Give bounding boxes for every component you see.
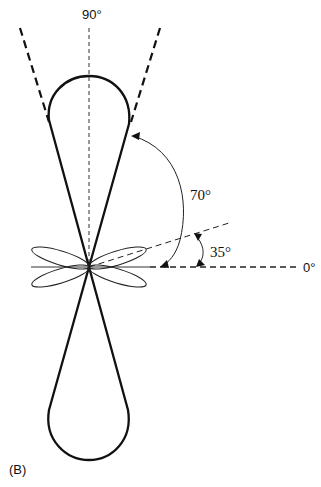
axis-35-degree-line xyxy=(89,223,229,267)
radiation-pattern-diagram: 90° 0° 70° 35° (B) xyxy=(0,0,321,487)
main-lobe-lower xyxy=(48,267,128,460)
label-70-degree: 70° xyxy=(190,187,211,203)
panel-label: (B) xyxy=(9,462,26,477)
arrowhead-35-bottom-icon xyxy=(196,259,205,267)
label-0-degree: 0° xyxy=(303,260,315,275)
cone-line-right xyxy=(131,28,160,122)
cone-line-left xyxy=(20,28,49,122)
arrowhead-35-top-icon xyxy=(194,233,202,241)
arrowhead-70-bottom-icon xyxy=(160,260,169,268)
label-35-degree: 35° xyxy=(210,244,231,260)
arrowhead-70-top-icon xyxy=(131,132,140,140)
label-90-degree: 90° xyxy=(82,7,102,22)
